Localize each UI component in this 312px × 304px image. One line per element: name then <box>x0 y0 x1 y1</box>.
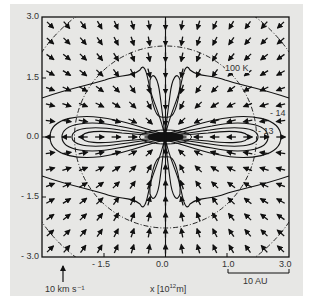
velocity-arrow-icon <box>229 37 234 44</box>
velocity-arrow-icon <box>179 150 186 156</box>
velocity-arrow-icon <box>97 245 102 253</box>
velocity-arrow-icon <box>114 21 118 29</box>
velocity-arrow-icon <box>47 38 54 44</box>
y-tick-label: 0.0 <box>9 131 39 141</box>
velocity-scale-label: 10 km s⁻¹ <box>45 284 85 294</box>
velocity-arrow-icon <box>147 165 151 173</box>
velocity-arrow-icon <box>131 245 134 254</box>
velocity-arrow-icon <box>196 69 200 77</box>
velocity-arrow-icon <box>180 165 184 173</box>
velocity-arrow-icon <box>114 229 118 237</box>
velocity-arrow-icon <box>131 37 134 46</box>
velocity-arrow-icon <box>260 104 269 107</box>
velocity-arrow-icon <box>212 182 218 188</box>
velocity-arrow-icon <box>63 199 71 204</box>
y-tick-label: 3.0 <box>9 11 39 21</box>
velocity-arrow-icon <box>212 86 218 92</box>
velocity-arrow-icon <box>244 198 251 204</box>
x-tick-label: 0.0 <box>156 259 169 269</box>
velocity-arrow-icon <box>196 85 201 92</box>
velocity-arrow-icon <box>46 199 54 203</box>
velocity-arrow-icon <box>245 54 252 60</box>
velocity-arrow-icon <box>148 37 150 46</box>
velocity-arrow-icon <box>276 168 285 170</box>
velocity-arrow-icon <box>194 119 202 123</box>
velocity-arrow-icon <box>212 197 217 204</box>
velocity-arrow-icon <box>131 21 134 30</box>
distance-scale-label: 10 AU <box>243 276 268 286</box>
velocity-arrow-icon <box>129 166 136 172</box>
velocity-arrow-icon <box>63 71 71 76</box>
velocity-arrow-icon <box>197 37 200 46</box>
velocity-arrow-icon <box>181 213 183 222</box>
velocity-arrow-icon <box>129 102 136 108</box>
velocity-arrow-icon <box>130 85 135 92</box>
velocity-arrow-icon <box>197 229 200 238</box>
velocity-arrow-icon <box>97 214 103 221</box>
velocity-arrow-icon <box>79 152 88 154</box>
velocity-arrow-icon <box>80 198 87 204</box>
contour-label-14: - 14 <box>270 108 286 118</box>
velocity-arrow-icon <box>129 151 137 155</box>
velocity-arrow-icon <box>80 214 87 220</box>
velocity-arrow-icon <box>243 120 252 122</box>
velocity-arrow-icon <box>113 182 119 188</box>
velocity-arrow-icon <box>148 229 150 238</box>
velocity-arrow-icon <box>212 69 217 76</box>
velocity-arrow-icon <box>197 245 200 254</box>
velocity-arrow-icon <box>277 54 284 59</box>
velocity-arrow-icon <box>229 214 235 221</box>
velocity-arrow-icon <box>97 229 102 236</box>
y-tick-label: - 1.5 <box>9 191 39 201</box>
velocity-arrow-icon <box>261 230 267 236</box>
contour-label-100k: 100 K <box>225 63 249 73</box>
x-tick-label: 1.0 <box>222 259 235 269</box>
velocity-arrow-icon <box>146 150 153 156</box>
velocity-arrow-icon <box>213 229 217 237</box>
velocity-arrow-icon <box>181 37 183 46</box>
velocity-arrow-icon <box>79 120 88 122</box>
velocity-arrow-icon <box>148 245 149 254</box>
velocity-arrow-icon <box>114 37 118 45</box>
velocity-arrow-icon <box>114 245 118 253</box>
velocity-arrow-icon <box>228 182 235 187</box>
velocity-arrow-icon <box>245 38 251 45</box>
velocity-arrow-icon <box>147 101 151 109</box>
velocity-arrow-icon <box>213 21 217 29</box>
velocity-arrow-icon <box>229 21 234 29</box>
velocity-arrow-icon <box>181 21 182 30</box>
velocity-arrow-icon <box>64 230 70 236</box>
y-tick-label: 1.5 <box>9 72 39 82</box>
velocity-arrow-icon <box>46 183 54 186</box>
velocity-arrow-icon <box>47 230 54 236</box>
velocity-arrow-icon <box>227 120 236 122</box>
velocity-arrow-icon <box>81 21 86 28</box>
x-tick-label: - 1.5 <box>92 259 110 269</box>
velocity-arrow-icon <box>96 86 103 91</box>
velocity-arrow-icon <box>228 198 235 204</box>
velocity-arrow-icon <box>245 214 252 220</box>
velocity-arrow-icon <box>245 230 251 237</box>
velocity-arrow-icon <box>148 197 150 206</box>
velocity-arrow-icon <box>261 71 269 76</box>
velocity-arrow-icon <box>211 167 219 172</box>
velocity-arrow-icon <box>277 199 285 203</box>
contours <box>16 0 312 287</box>
velocity-arrow-icon <box>148 69 150 78</box>
velocity-arrow-icon <box>46 152 55 153</box>
velocity-arrow-icon <box>97 54 103 61</box>
velocity-arrow-icon <box>277 87 285 90</box>
velocity-arrow-icon <box>79 87 87 92</box>
velocity-arrow-icon <box>261 214 268 220</box>
velocity-arrow-icon <box>196 197 200 205</box>
velocity-arrow-icon <box>46 71 54 75</box>
velocity-arrow-icon <box>245 245 250 252</box>
velocity-arrow-icon <box>96 103 104 107</box>
contour-label-13: - 13 <box>258 126 274 136</box>
velocity-arrow-icon <box>278 22 285 28</box>
velocity-arrow-icon <box>148 53 150 62</box>
velocity-arrow-icon <box>195 102 202 108</box>
velocity-arrow-icon <box>181 229 183 238</box>
velocity-arrow-icon <box>96 198 103 204</box>
velocity-arrow-icon <box>64 38 70 44</box>
